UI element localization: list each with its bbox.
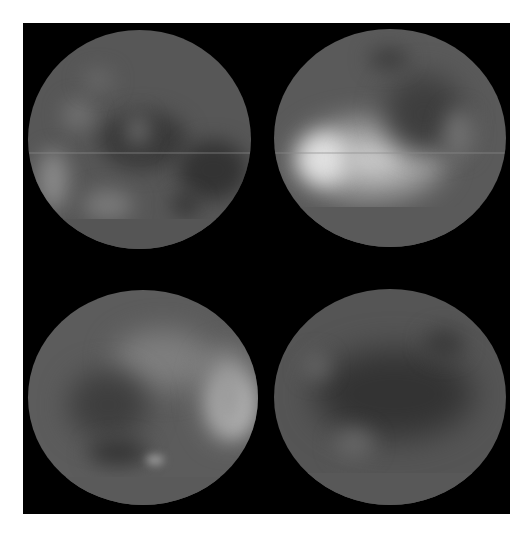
disk-top-right: [274, 29, 506, 247]
disk-bottom-left: [28, 290, 258, 505]
disk-top-left: [28, 30, 251, 249]
disk-bottom-right: [274, 289, 506, 505]
